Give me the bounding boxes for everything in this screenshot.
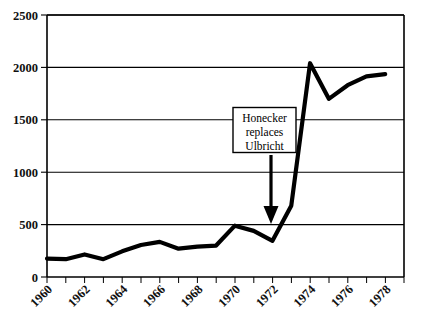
- annotation-line-3: Ulbricht: [245, 140, 284, 152]
- y-label-0: 0: [32, 271, 38, 285]
- y-label-500: 500: [19, 218, 38, 232]
- y-label-2500: 2500: [13, 9, 38, 23]
- y-label-2000: 2000: [13, 61, 38, 75]
- y-label-1000: 1000: [13, 166, 38, 180]
- line-chart: 2500 2000 1500 1000 500 0: [0, 0, 422, 329]
- annotation-line-1: Honecker: [242, 112, 287, 124]
- chart-page: 2500 2000 1500 1000 500 0: [0, 0, 422, 329]
- chart-background: [0, 0, 422, 329]
- y-label-1500: 1500: [13, 113, 38, 127]
- annotation-line-2: replaces: [246, 126, 284, 139]
- honecker-annotation: Honecker replaces Ulbricht: [233, 108, 296, 153]
